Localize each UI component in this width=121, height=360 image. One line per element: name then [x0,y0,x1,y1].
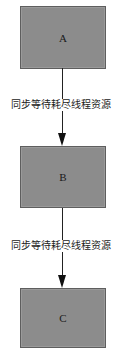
node-a-label: A [59,32,67,44]
node-a: A [20,6,106,69]
arrowhead-down-icon [58,275,66,288]
node-b-label: B [59,171,66,183]
edge-a-b-label: 同步等待耗尽线程资源 [0,99,121,111]
edge-b-c-label: 同步等待耗尽线程资源 [0,240,121,252]
arrowhead-down-icon [58,133,66,146]
node-b: B [20,146,106,208]
node-c: C [20,288,106,348]
node-c-label: C [59,312,66,324]
